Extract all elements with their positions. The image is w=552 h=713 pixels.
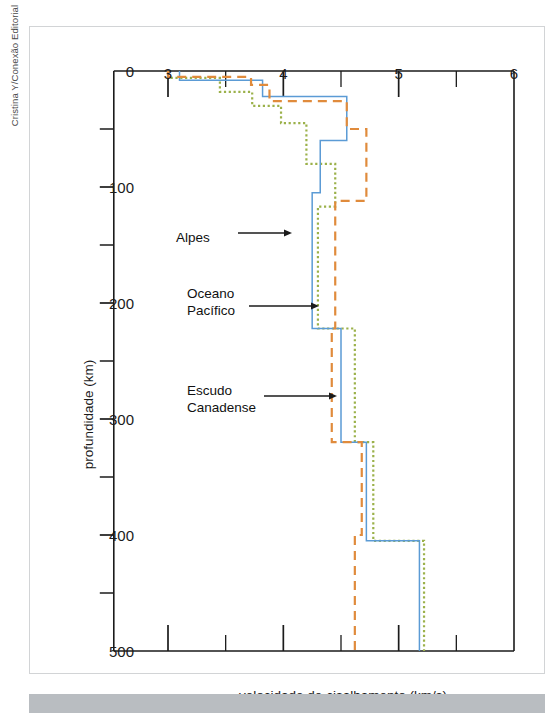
annotation-arrow-head (329, 392, 337, 399)
y-tick-label: 500 (90, 643, 134, 660)
y-tick-label: 300 (90, 411, 134, 428)
x-tick-label: 5 (394, 65, 402, 82)
series-line-alpes (168, 71, 424, 651)
series-line-escudo-canadense (168, 71, 366, 651)
series-group (168, 71, 424, 651)
y-tick-label: 400 (90, 527, 134, 544)
annotation-label: Alpes (176, 230, 210, 247)
axis-frame (114, 71, 514, 651)
annotation-label: Oceano Pacífico (187, 286, 235, 320)
y-tick-label: 0 (90, 63, 134, 80)
figure-container: Cristina Y/Conexão Editorial profundidad… (0, 0, 552, 713)
axes-group (100, 71, 514, 651)
x-tick-label: 3 (164, 65, 172, 82)
x-tick-label: 6 (510, 65, 518, 82)
annotation-arrows (238, 229, 337, 399)
series-line-oceano-pac-fico (180, 71, 420, 651)
annotation-arrow-head (284, 229, 292, 236)
y-tick-label: 100 (90, 179, 134, 196)
y-tick-label: 200 (90, 295, 134, 312)
annotation-arrow-head (311, 302, 319, 309)
annotation-label: Escudo Canadense (187, 383, 256, 417)
footer-bar (29, 694, 545, 713)
image-credit: Cristina Y/Conexão Editorial (9, 1, 20, 131)
plot-svg (30, 27, 546, 675)
chart-panel: profundidade (km) velocidade de cisalham… (29, 26, 545, 674)
x-tick-label: 4 (279, 65, 287, 82)
